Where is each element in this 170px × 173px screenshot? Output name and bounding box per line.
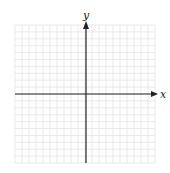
y-axis-label: y [82, 9, 90, 22]
coordinate-plane: x y [0, 0, 170, 173]
x-axis-arrowhead-icon [151, 91, 158, 97]
x-axis-label: x [160, 88, 167, 101]
